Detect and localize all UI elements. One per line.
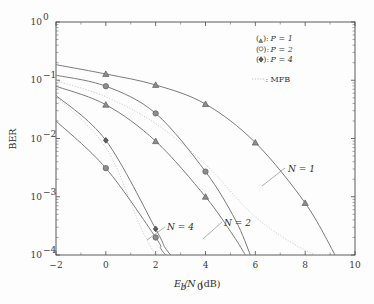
annotation-n1-leader [262,168,285,186]
legend-paren-open-p2: ( [256,45,259,54]
y-tick-label-1e0: 10 0 [31,12,49,27]
y-tick-base-1e-2: 10 [31,134,43,144]
y-tick-exp-1e-4: −4 [43,245,57,255]
chart-root: −2 0 2 4 6 8 10 10 0 10 −1 10 −2 10 −3 1… [0,0,374,304]
circle-marker [153,235,158,240]
series-curve-3 [56,95,171,255]
x-tick-label-2: 2 [153,260,159,270]
legend-label-p1: P = 1 [270,34,293,43]
circle-marker [103,165,108,170]
y-tick-base-1e0: 10 [31,17,43,27]
legend-paren-open-p1: ( [256,34,259,43]
circle-marker [153,111,158,116]
x-tick-label-6: 6 [252,260,258,270]
y-tick-base-1e-3: 10 [31,192,43,202]
legend-label-mfb: MFB [271,75,291,84]
x-tick-label-0: 0 [103,260,109,270]
annotation-n2: N = 2 [203,218,251,239]
x-tick-label-8: 8 [302,260,308,270]
y-tick-label-1e-3: 10 −3 [31,187,57,202]
major-tick-group [56,22,355,255]
annotation-n1-label: N = 1 [287,164,315,174]
y-tick-label-1e-2: 10 −2 [31,129,57,144]
annotation-n1: N = 1 [262,164,315,186]
legend-paren-open-p4: ( [256,55,259,64]
minor-tick-group [56,22,355,255]
ber-vs-ebn0-chart: −2 0 2 4 6 8 10 10 0 10 −1 10 −2 10 −3 1… [0,0,374,304]
triangle-marker [103,102,109,108]
y-tick-exp-1e-1: −1 [43,70,56,80]
x-tick-label-4: 4 [203,260,209,270]
legend-row-p4: ( ): P = 4 [256,55,293,64]
legend-row-p2: ( ): P = 2 [256,45,293,54]
legend: ( ): P = 1 ( ): P = 2 ( ): P = 4 : MFB [252,34,293,84]
annotation-n4-label: N = 4 [166,222,194,232]
series-curve-4 [56,121,166,255]
y-tick-label-1e-4: 10 −4 [31,245,57,260]
y-tick-label-1e-1: 10 −1 [31,70,57,85]
plot-frame [56,22,355,255]
y-tick-exp-1e-2: −2 [43,129,56,139]
annotation-n2-leader [203,222,222,239]
x-axis-title: E b /N 0 (dB) [173,278,220,292]
legend-paren-close-p2: ): [263,45,269,54]
legend-row-mfb: : MFB [252,75,290,84]
x-axis-title-n: /N [183,278,196,289]
y-tick-base-1e-4: 10 [31,250,43,260]
triangle-marker [202,101,208,107]
legend-paren-close-p4: ): [263,55,269,64]
legend-paren-close-p1: ): [263,34,269,43]
legend-colon-mfb: : [266,75,269,84]
circle-marker [103,84,108,89]
y-tick-exp-1e-3: −3 [43,187,57,197]
x-tick-label-neg2: −2 [49,260,62,270]
series-curve-1 [56,75,250,255]
legend-label-p4: P = 4 [270,55,293,64]
legend-row-p1: ( ): P = 1 [256,34,293,43]
mfb-curve-1 [56,96,156,255]
y-tick-base-1e-1: 10 [31,75,43,85]
annotation-n2-label: N = 2 [223,218,251,228]
data-curve-group [56,65,335,255]
circle-marker [203,169,208,174]
y-tick-exp-1e0: 0 [43,12,49,22]
y-axis-title: BER [7,128,18,150]
data-marker-group [103,71,309,240]
x-tick-label-10: 10 [349,260,361,270]
legend-label-p2: P = 2 [270,45,293,54]
x-axis-title-unit: (dB) [200,278,220,289]
